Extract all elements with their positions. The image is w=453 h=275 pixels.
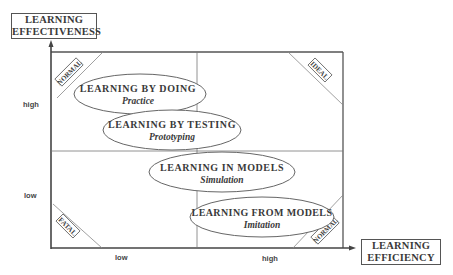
x-axis-title-line1: LEARNING [362,240,440,252]
matrix-diagram: NORMAL IDEAL FATAL NORMAL LEARNING BY DO… [0,0,453,275]
ellipse-learning-in-models: LEARNING IN MODELS Simulation [149,152,295,192]
y-axis-title-line2: EFFECTIVENESS [12,26,96,38]
x-axis-title-line2: EFFICIENCY [362,252,440,264]
ellipse-learning-by-doing: LEARNING BY DOING Practice [74,74,206,114]
y-tick-high: high [23,100,39,109]
x-tick-low: low [115,253,128,262]
svg-text:LEARNING BY TESTING: LEARNING BY TESTING [108,119,236,130]
y-tick-low: low [24,191,37,200]
x-axis-arrow-icon [349,246,356,251]
y-axis-title: LEARNING EFFECTIVENESS [11,13,97,39]
svg-text:Simulation: Simulation [200,175,243,185]
svg-text:LEARNING FROM MODELS: LEARNING FROM MODELS [192,207,333,218]
ellipse-learning-from-models: LEARNING FROM MODELS Imitation [190,197,334,237]
svg-text:LEARNING BY DOING: LEARNING BY DOING [80,83,197,94]
svg-text:Practice: Practice [122,96,155,106]
diagonal-bottom-left [53,204,102,248]
svg-text:Prototyping: Prototyping [149,132,195,142]
x-axis-title: LEARNING EFFICIENCY [361,239,441,265]
ellipse-learning-by-testing: LEARNING BY TESTING Prototyping [103,110,241,150]
y-axis-title-line1: LEARNING [12,14,96,26]
x-tick-high: high [262,254,278,263]
svg-text:LEARNING IN MODELS: LEARNING IN MODELS [160,162,284,173]
svg-text:Imitation: Imitation [243,220,280,230]
y-axis-arrow-icon [49,40,54,47]
corner-label-top-right: IDEAL [308,58,332,82]
